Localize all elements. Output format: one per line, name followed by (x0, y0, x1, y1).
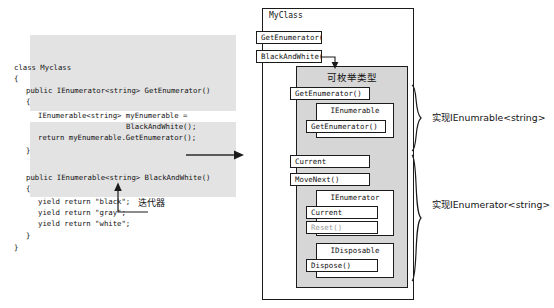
enumerable-member-box: MoveNext() (290, 173, 370, 186)
code-line: { (14, 73, 18, 84)
code-line: return myEnumerable.GetEnumerator(); (38, 132, 196, 143)
interface-member-box: Current (306, 206, 378, 219)
enumerable-member-box: GetEnumerator() (290, 87, 370, 100)
code-line: IEnumerable<string> myEnumerable = (38, 110, 187, 121)
class-diagram: MyClass 可枚举类型 GetEnumerator()BlackAndWhi… (0, 0, 554, 308)
blackandwhite-to-enumerable-arrow-icon (322, 54, 344, 70)
enumerable-member-box: Current (290, 155, 370, 168)
enumerable-type-title: 可枚举类型 (303, 70, 401, 84)
code-line: } (26, 145, 30, 156)
code-line: yield return "gray"; (38, 207, 126, 218)
code-line: yield return "black"; (38, 196, 130, 207)
diagram-page: class Myclass{public IEnumerator<string>… (0, 0, 554, 308)
code-line: public IEnumerable<string> BlackAndWhite… (26, 172, 211, 183)
interface-title: IDisposable (316, 246, 394, 255)
interface-member-box: Reset() (306, 221, 378, 234)
code-line: public IEnumerator<string> GetEnumerator… (26, 85, 211, 96)
brace-enumerable-icon (410, 84, 426, 152)
code-line: } (26, 230, 30, 241)
implements-annotation: 实现IEnumerator<string> (432, 197, 550, 211)
implements-annotation: 实现IEnumrable<string> (432, 110, 545, 124)
code-line: class Myclass (14, 62, 71, 73)
code-line: } (14, 242, 18, 253)
myclass-title: MyClass (269, 11, 303, 20)
class-method-box: BlackAndWhite() (256, 50, 322, 63)
interface-title: IEnumerator (316, 193, 394, 202)
code-line: BlackAndWhite(); (126, 121, 196, 132)
interface-member-box: GetEnumerator() (306, 120, 386, 133)
code-line: yield return "white"; (38, 218, 130, 229)
code-line: { (26, 183, 30, 194)
interface-member-box: Dispose() (306, 259, 378, 272)
code-line: { (26, 96, 30, 107)
class-method-box: GetEnumerator() (256, 31, 322, 44)
interface-title: IEnumerable (316, 106, 394, 115)
brace-enumerator-icon (410, 154, 426, 282)
